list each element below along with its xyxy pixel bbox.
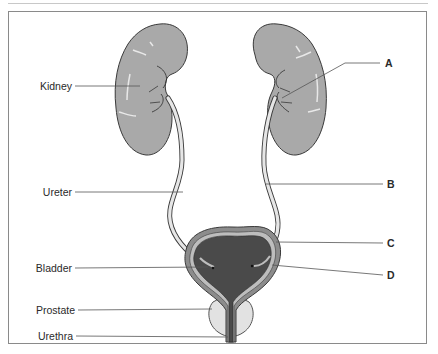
label-c: C bbox=[387, 237, 395, 249]
label-kidney: Kidney bbox=[28, 80, 72, 92]
label-prostate: Prostate bbox=[22, 304, 75, 316]
label-a: A bbox=[385, 57, 393, 69]
label-b: B bbox=[387, 178, 395, 190]
urinary-system-illustration bbox=[0, 0, 438, 354]
label-urethra: Urethra bbox=[22, 330, 73, 342]
label-bladder: Bladder bbox=[22, 262, 72, 274]
label-ureter: Ureter bbox=[28, 186, 72, 198]
left-kidney bbox=[115, 24, 187, 155]
bladder bbox=[185, 227, 281, 343]
label-d: D bbox=[387, 269, 395, 281]
